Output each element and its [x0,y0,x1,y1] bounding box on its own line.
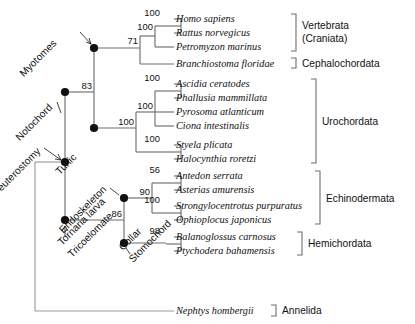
group-label-vertebrata-line2: (Craniata) [302,33,347,44]
bracket-urochordata [311,79,316,163]
bracket-annelida [271,305,276,316]
arrow-endoskeleton [110,188,119,195]
char-label-tunic: Tunic [53,152,78,177]
support-deuterostome: 83 [82,80,92,91]
support-craniata: 100 [137,21,153,32]
node-dot-myotomes [90,44,98,52]
node-dot-tunic [90,124,98,132]
group-label-urochordata: Urochordata [322,116,378,127]
char-label-deuterostomy: Deuterostomy [0,145,43,198]
node-dot-endoskeleton [120,194,128,202]
support-styela-halo: 100 [144,133,160,144]
char-label-myotomes: Myotomes [17,38,58,79]
leaf-label-ciona: Ciona intestinalis [176,120,249,131]
arrow-notochord [57,102,61,113]
support-ascidia-phall: 100 [144,72,160,83]
bracket-hemichordata [297,232,302,255]
group-label-cephalochordata: Cephalochordata [302,58,380,69]
leaf-label-asterias: Asterias amurensis [175,184,254,195]
bracket-cephalochordata [291,58,296,68]
leaf-label-ascidia: Ascidia ceratodes [175,78,250,89]
support-tunicata: 100 [118,116,134,127]
leaf-label-ptychodera: Ptychodera bahamensis [175,245,275,256]
support-urocore: 100 [137,100,153,111]
char-label-notochord: Notochord [13,101,54,142]
leaf-label-nephtys: Nephtys hombergii [175,305,254,316]
support-chordata: 71 [128,35,138,46]
leaf-label-halocynthia: Halocynthia roretzi [175,153,256,164]
arrow-deuterostomy [44,148,61,160]
support-echinodermata: 90 [140,186,150,197]
leaf-label-strongylo: Strongylocentrotus purpuratus [176,200,302,211]
bracket-echinodermata [315,171,320,224]
bracket-vertebrata [291,14,296,51]
tree-canvas: Homo sapiens Rattus norvegicus Petromyzo… [0,0,415,324]
phylogenetic-tree-figure: Homo sapiens Rattus norvegicus Petromyzo… [0,0,415,324]
leaf-label-rattus: Rattus norvegicus [175,27,250,38]
support-antedon-aster: 56 [150,164,160,175]
leaf-label-antedon: Antedon serrata [175,170,243,181]
leaf-label-ophioplocus: Ophioplocus japonicus [176,214,271,225]
node-dot-notochord [61,88,69,96]
group-label-hemichordata: Hemichordata [308,238,372,249]
leaf-label-pyrosoma: Pyrosoma atlanticum [175,106,264,117]
leaf-label-homo: Homo sapiens [175,13,235,24]
leaf-label-petromyzon: Petromyzon marinus [175,41,261,52]
group-label-echinodermata: Echinodermata [326,193,395,204]
leaf-label-balanoglossus: Balanoglossus carnosus [176,231,276,242]
leaf-labels: Homo sapiens Rattus norvegicus Petromyzo… [175,13,302,316]
support-homo-rattus: 100 [144,7,160,18]
group-brackets: Vertebrata (Craniata) Cephalochordata Ur… [271,14,395,316]
group-label-annelida: Annelida [282,305,322,316]
leaf-label-branchiostoma: Branchiostoma floridae [176,58,275,69]
group-label-vertebrata-line1: Vertebrata [302,20,349,31]
leaf-label-styela: Styela plicata [176,139,232,150]
leaf-label-phallusia: Phallusia mammillata [175,92,267,103]
